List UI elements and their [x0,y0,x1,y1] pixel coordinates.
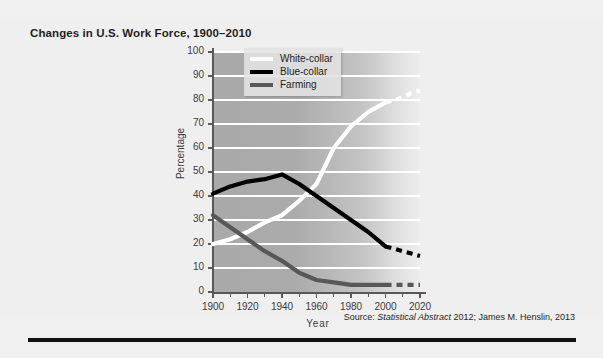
x-tick [247,293,248,298]
legend-item: Farming [250,78,333,91]
y-tick-label: 90 [164,69,204,80]
source-italic-title: Statistical Abstract [377,312,451,322]
series-projection-white-collar [386,90,421,102]
legend-swatch-icon [250,57,273,61]
legend-label: Farming [280,79,317,90]
y-tick-label: 80 [164,93,204,104]
x-tick [419,293,420,298]
x-tick [368,293,369,297]
legend-label: Blue-collar [280,66,327,77]
y-tick-label: 20 [164,237,204,248]
chart-legend: White-collarBlue-collarFarming [244,48,341,96]
x-tick [350,293,351,298]
x-tick [212,293,213,298]
legend-swatch-icon [250,70,273,74]
source-note: Source: Statistical Abstract 2012; James… [344,312,575,322]
legend-label: White-collar [280,53,333,64]
y-tick-label: 10 [164,261,204,272]
x-tick [402,293,403,297]
y-axis-title: Percentage [175,109,186,199]
source-prefix: Source: [344,312,375,322]
series-projection-blue-collar [386,246,421,256]
legend-item: White-collar [250,52,333,65]
y-tick-label: 30 [164,213,204,224]
legend-item: Blue-collar [250,65,333,78]
x-tick [333,293,334,297]
legend-swatch-icon [250,83,273,87]
x-tick [299,293,300,297]
bottom-rule [28,338,576,342]
y-tick-label: 0 [164,285,204,296]
x-tick [281,293,282,298]
x-tick-label: 2020 [397,301,443,312]
x-axis-line [212,292,426,294]
x-tick [230,293,231,297]
x-tick [316,293,317,298]
series-line-white-collar [213,102,386,244]
y-tick-label: 100 [164,45,204,56]
source-rest: 2012; James M. Henslin, 2013 [453,312,575,322]
x-tick [264,293,265,297]
page-title: Changes in U.S. Work Force, 1900–2010 [30,27,251,39]
x-tick [385,293,386,298]
